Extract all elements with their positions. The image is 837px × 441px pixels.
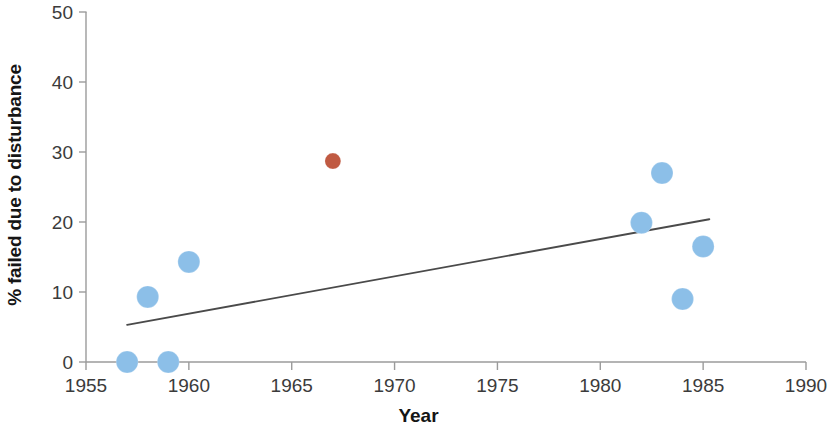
x-axis-title: Year — [0, 405, 837, 427]
data-point — [325, 153, 341, 169]
x-axis-title-text: Year — [398, 405, 438, 426]
trend-line — [127, 219, 709, 325]
x-tick-label: 1985 — [682, 375, 724, 396]
x-tick-label: 1960 — [168, 375, 210, 396]
y-tick-label: 20 — [52, 212, 73, 233]
y-tick-label: 50 — [52, 2, 73, 23]
x-tick-label: 1970 — [373, 375, 415, 396]
data-points — [116, 153, 714, 373]
data-point — [692, 236, 714, 258]
x-tick-label: 1975 — [476, 375, 518, 396]
x-tick-label: 1980 — [579, 375, 621, 396]
data-point — [651, 162, 673, 184]
y-tick-label: 30 — [52, 142, 73, 163]
x-tick-label: 1955 — [65, 375, 107, 396]
y-tick-label: 0 — [62, 352, 73, 373]
x-axis-ticks: 19551960196519701975198019851990 — [65, 362, 827, 396]
data-point — [672, 288, 694, 310]
data-point — [157, 351, 179, 373]
plot-area: 01020304050 1955196019651970197519801985… — [0, 0, 837, 441]
data-point — [630, 212, 652, 234]
x-tick-label: 1990 — [785, 375, 827, 396]
scatter-chart: % failed due to disturbance 01020304050 … — [0, 0, 837, 441]
y-tick-label: 10 — [52, 282, 73, 303]
data-point — [178, 251, 200, 273]
data-point — [116, 351, 138, 373]
data-point — [137, 286, 159, 308]
y-axis-ticks: 01020304050 — [52, 2, 87, 373]
y-tick-label: 40 — [52, 72, 73, 93]
x-tick-label: 1965 — [271, 375, 313, 396]
